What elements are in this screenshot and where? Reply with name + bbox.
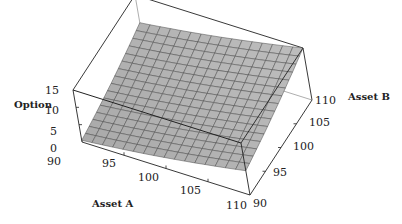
x-tick-90: 90: [47, 155, 61, 168]
option-surface: [82, 23, 303, 171]
y-tick-110: 110: [315, 94, 336, 107]
z-tick-10: 10: [45, 104, 59, 117]
y-tick-90: 90: [253, 197, 267, 210]
x-axis-label: Asset A: [91, 198, 133, 209]
z-tick-5: 5: [50, 125, 57, 138]
z-tick-15: 15: [45, 84, 59, 97]
y-tick-95: 95: [273, 166, 287, 179]
y-axis-label: Asset B: [347, 91, 390, 102]
surface-chart: Option Asset A Asset B 0 5 10 15 90 95 1…: [0, 0, 402, 224]
x-tick-110: 110: [226, 199, 247, 212]
x-tick-100: 100: [138, 171, 159, 184]
x-tick-95: 95: [102, 157, 116, 170]
y-tick-100: 100: [293, 140, 314, 153]
z-tick-0: 0: [50, 142, 57, 155]
y-tick-105: 105: [309, 116, 330, 129]
x-tick-105: 105: [180, 184, 201, 197]
